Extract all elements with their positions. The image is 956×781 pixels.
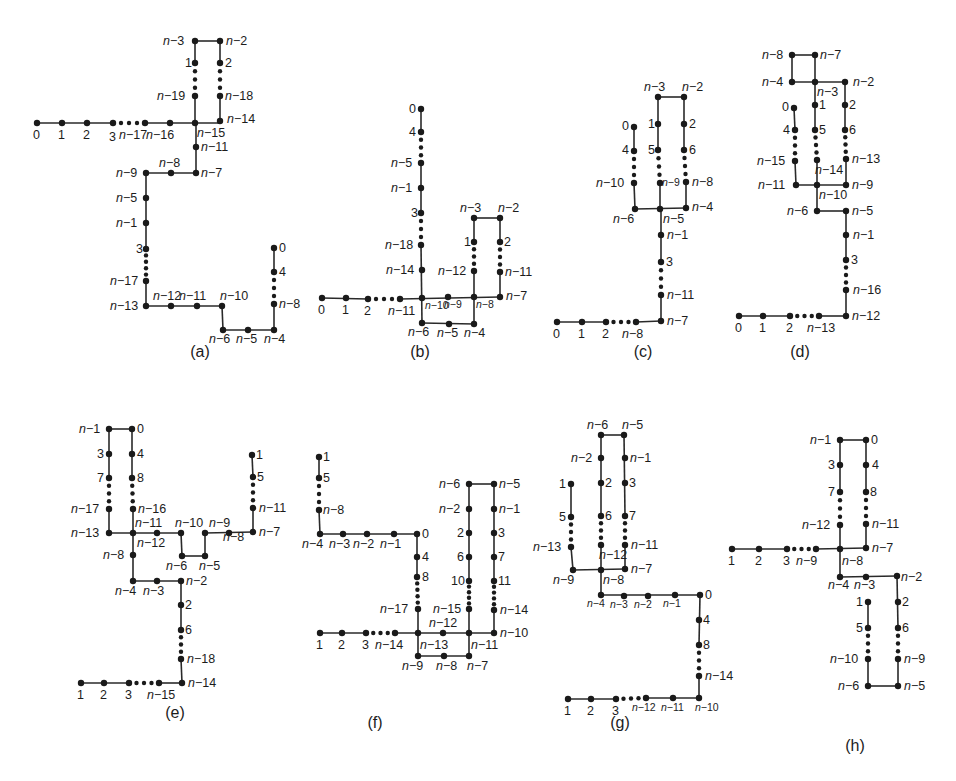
ellipsis-dot xyxy=(864,506,868,510)
vertex xyxy=(84,120,90,126)
edge xyxy=(252,455,253,477)
vertex xyxy=(843,232,849,238)
vertex xyxy=(681,121,687,127)
vertex-label: n−15 xyxy=(197,126,225,140)
vertex-label: n−7 xyxy=(259,525,280,539)
vertex-label: 2 xyxy=(364,304,371,318)
vertex-label: n−4 xyxy=(587,597,605,609)
vertex-label: n−2 xyxy=(353,537,374,551)
vertex-label: 3 xyxy=(851,253,858,267)
vertex xyxy=(895,656,901,662)
vertex xyxy=(193,170,199,176)
ellipsis-dot xyxy=(802,314,806,318)
vertex-label: n−4 xyxy=(762,75,783,89)
vertex-label: 7 xyxy=(97,471,104,485)
vertex-label: n−11 xyxy=(758,178,785,192)
vertex xyxy=(895,599,901,605)
vertex-label: n−8 xyxy=(622,327,643,341)
vertex xyxy=(179,680,185,686)
vertex-label: 1 xyxy=(323,450,330,464)
vertex xyxy=(418,242,424,248)
vertex xyxy=(466,506,472,512)
vertex xyxy=(491,506,497,512)
vertex-label: n−10 xyxy=(695,701,719,713)
vertex-label: 2 xyxy=(457,526,464,540)
vertex-label: n−4 xyxy=(464,326,485,340)
vertex xyxy=(392,630,398,636)
vertex-label: 3 xyxy=(362,638,369,652)
vertex-label: n−7 xyxy=(201,166,222,180)
ellipsis-dot xyxy=(838,506,842,510)
ellipsis-dot xyxy=(838,498,842,502)
ellipsis-dot xyxy=(623,536,627,540)
panel-d: 012n−13n−12n−163n−1n−5n−6n−10n−11n−904n−… xyxy=(735,48,881,360)
vertex-label: n−14 xyxy=(500,603,528,617)
vertex-label: n−11 xyxy=(471,638,498,652)
ellipsis-dot xyxy=(218,69,222,73)
vertex xyxy=(631,180,637,186)
vertex xyxy=(631,148,637,154)
ellipsis-dot xyxy=(130,491,134,495)
vertex-label: n−9 xyxy=(209,516,230,530)
vertex xyxy=(217,60,223,66)
vertex xyxy=(655,121,661,127)
vertex xyxy=(491,607,497,613)
vertex-label: 1 xyxy=(77,688,84,702)
vertex xyxy=(143,220,149,226)
vertex-label: 3 xyxy=(498,526,505,540)
ellipsis-dot xyxy=(632,157,636,161)
vertex-label: 1 xyxy=(342,303,349,317)
vertex xyxy=(271,301,277,307)
vertex-label: n−4 xyxy=(264,332,285,346)
ellipsis-dot xyxy=(814,143,818,147)
vertex xyxy=(418,210,424,216)
vertex-label: n−8 xyxy=(223,530,244,544)
vertex-label: n−8 xyxy=(762,48,783,62)
vertex xyxy=(419,267,425,273)
vertex-label: 2 xyxy=(100,688,107,702)
ellipsis-dot xyxy=(467,596,471,600)
ellipsis-dot xyxy=(415,581,419,585)
ellipsis-dot xyxy=(656,156,660,160)
vertex xyxy=(34,120,40,126)
ellipsis-dot xyxy=(317,484,321,488)
ellipsis-dot xyxy=(807,547,811,551)
panel-e: 123n−15n−14n−1862n−2n−3n−4n−8n−12n−13n−1… xyxy=(71,422,286,721)
vertex-label: n−12 xyxy=(632,701,656,713)
ellipsis-dot xyxy=(866,641,870,645)
ellipsis-dot xyxy=(144,272,148,276)
vertex-label: 11 xyxy=(498,574,511,588)
ellipsis-dot xyxy=(623,521,627,525)
vertex xyxy=(271,269,277,275)
figure-canvas: 0123n−17n−16n−15n−14n−3n−212n−19n−18n−11… xyxy=(0,0,956,781)
vertex xyxy=(415,630,421,636)
vertex xyxy=(837,546,843,552)
vertex xyxy=(414,531,420,537)
vertex xyxy=(363,630,369,636)
ellipsis-dot xyxy=(416,600,420,604)
vertex xyxy=(130,506,136,512)
vertex xyxy=(658,232,664,238)
vertex-label: n−8 xyxy=(476,298,494,310)
vertex xyxy=(681,147,687,153)
panel-h: 123n−9n−8n−7n−11840n−137n−12n−4n−3n−215n… xyxy=(728,433,925,754)
vertex-label: n−5 xyxy=(437,326,458,340)
vertex-label: 1 xyxy=(559,477,566,491)
vertex xyxy=(812,127,818,133)
vertex-label: n−13 xyxy=(807,321,835,335)
vertex-label: n−2 xyxy=(682,80,703,94)
ellipsis-dot xyxy=(799,547,803,551)
ellipsis-dot xyxy=(626,320,630,324)
vertex xyxy=(622,513,628,519)
vertex xyxy=(440,630,446,636)
vertex xyxy=(631,124,637,130)
ellipsis-dot xyxy=(179,635,183,639)
vertex xyxy=(217,38,223,44)
ellipsis-dot xyxy=(193,86,197,90)
vertex-label: n−18 xyxy=(187,652,215,666)
ellipsis-dot xyxy=(896,634,900,638)
ellipsis-dot xyxy=(793,143,797,147)
vertex-label: n−11 xyxy=(388,304,415,318)
vertex-label: n−11 xyxy=(667,288,694,302)
ellipsis-dot xyxy=(810,314,814,318)
